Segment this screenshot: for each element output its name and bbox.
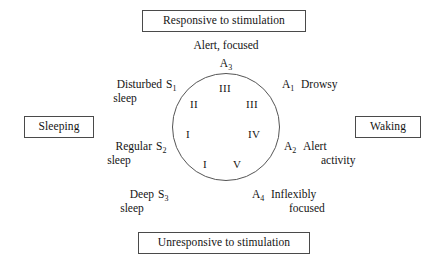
- state-label-a2-text: Alert activity: [303, 140, 356, 167]
- state-s2-line2: sleep: [86, 154, 152, 168]
- state-code-s2: S2: [156, 140, 166, 154]
- apex-code-a3: A3: [196, 57, 256, 71]
- state-code-s3: S3: [158, 188, 168, 202]
- state-label-s2-text: Regular sleep: [86, 140, 152, 167]
- state-s1-code-subscript: 1: [172, 84, 176, 93]
- state-s3-line2: sleep: [110, 202, 154, 216]
- ring-numeral-upper-right: III: [246, 98, 258, 110]
- state-code-a1: A1: [282, 78, 294, 92]
- state-label-s3-text: Deep sleep: [110, 188, 154, 215]
- consciousness-cycle-diagram: Responsive to stimulation Unresponsive t…: [0, 0, 445, 270]
- state-label-a1-text: Drowsy: [301, 78, 337, 92]
- state-a4-code-subscript: 4: [260, 194, 264, 203]
- state-a2-line2: activity: [303, 154, 356, 168]
- axis-label-waking: Waking: [355, 116, 421, 138]
- axis-label-sleeping: Sleeping: [24, 116, 94, 138]
- ring-numeral-mid-right: IV: [248, 128, 260, 140]
- state-s1-line1: Disturbed: [117, 78, 162, 90]
- apex-code-subscript: 3: [228, 63, 232, 72]
- state-code-a2: A2: [284, 140, 296, 154]
- ring-numeral-upper-left: II: [190, 98, 198, 110]
- state-code-a4: A4: [252, 188, 264, 202]
- ring-numeral-bottom-right: V: [233, 158, 241, 170]
- state-s3-line1: Deep: [130, 188, 154, 200]
- state-a2-line1: Alert: [303, 140, 327, 152]
- ring-numeral-top-center: III: [219, 82, 231, 94]
- state-a2-code-subscript: 2: [292, 146, 296, 155]
- axis-label-unresponsive-to-stimulation: Unresponsive to stimulation: [138, 232, 310, 254]
- apex-label-alert-focused: Alert, focused: [166, 39, 286, 53]
- state-code-s1: S1: [166, 78, 176, 92]
- state-label-a4-text: Inflexibly focused: [271, 188, 325, 215]
- state-label-s1-text: Disturbed sleep: [88, 78, 162, 105]
- state-a4-line2: focused: [271, 202, 325, 216]
- state-s2-line1: Regular: [116, 140, 152, 152]
- state-s3-code-subscript: 3: [164, 194, 168, 203]
- ring-numeral-mid-left: I: [186, 128, 190, 140]
- state-a1-code-subscript: 1: [290, 84, 294, 93]
- axis-label-responsive-to-stimulation: Responsive to stimulation: [142, 10, 306, 32]
- state-a4-line1: Inflexibly: [271, 188, 316, 200]
- state-s1-line2: sleep: [88, 92, 162, 106]
- ring-numeral-bottom-left: I: [203, 158, 207, 170]
- state-s2-code-subscript: 2: [162, 146, 166, 155]
- apex-code-letter: A: [220, 57, 228, 69]
